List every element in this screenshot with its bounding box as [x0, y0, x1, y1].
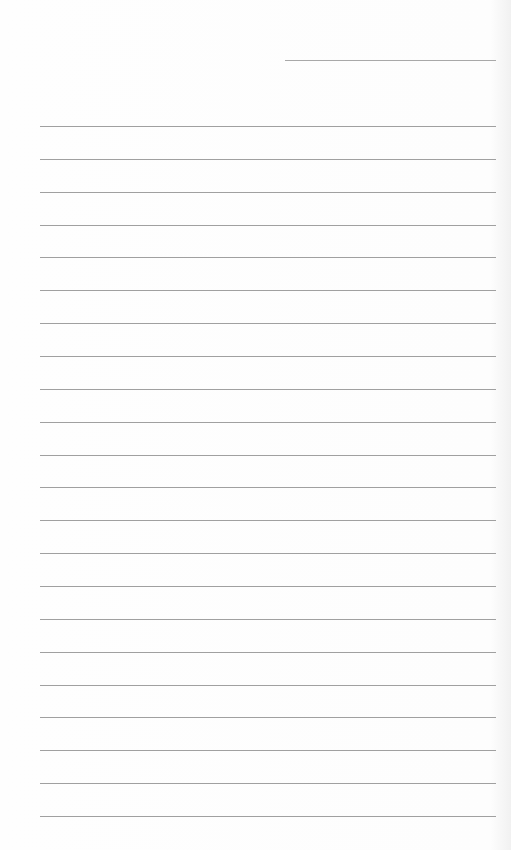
ruled-line [40, 159, 496, 160]
ruled-line [40, 750, 496, 751]
ruled-line [40, 192, 496, 193]
ruled-line [40, 455, 496, 456]
ruled-line [40, 257, 496, 258]
ruled-line [40, 685, 496, 686]
header-line [285, 60, 496, 61]
ruled-line [40, 356, 496, 357]
ruled-line [40, 323, 496, 324]
ruled-line [40, 225, 496, 226]
ruled-line [40, 487, 496, 488]
ruled-line [40, 783, 496, 784]
ruled-line [40, 422, 496, 423]
lined-paper-page [0, 0, 511, 850]
ruled-line [40, 619, 496, 620]
ruled-line [40, 126, 496, 127]
ruled-line [40, 816, 496, 817]
ruled-line [40, 290, 496, 291]
ruled-line [40, 520, 496, 521]
ruled-line [40, 652, 496, 653]
ruled-line [40, 389, 496, 390]
ruled-line [40, 553, 496, 554]
ruled-line [40, 586, 496, 587]
ruled-line [40, 717, 496, 718]
